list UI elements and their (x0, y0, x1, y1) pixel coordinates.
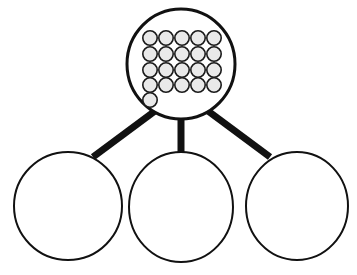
counter-dot (143, 93, 157, 107)
counter-dot (175, 78, 189, 92)
counter-dot (175, 47, 189, 61)
group-part-right[interactable] (246, 152, 348, 260)
counter-dot (143, 63, 157, 77)
counter-dot (143, 78, 157, 92)
counter-dot (207, 63, 221, 77)
counter-dot (207, 78, 221, 92)
counter-dot (191, 78, 205, 92)
group-part-left[interactable] (14, 152, 122, 260)
counter-dot (191, 31, 205, 45)
counter-dot (175, 63, 189, 77)
connector-left (93, 108, 159, 157)
counter-dot (207, 47, 221, 61)
counter-dot (159, 78, 173, 92)
counter-dot (159, 31, 173, 45)
counter-dot (159, 47, 173, 61)
counter-dot (191, 63, 205, 77)
counter-dot (159, 63, 173, 77)
counter-dot (143, 31, 157, 45)
counter-dot (175, 31, 189, 45)
group-part-middle[interactable] (129, 152, 233, 262)
counter-dot (191, 47, 205, 61)
diagram-svg (0, 0, 357, 275)
counter-dot (207, 31, 221, 45)
connector-right (204, 108, 270, 157)
child-nodes-layer (14, 152, 348, 262)
counter-dot (143, 47, 157, 61)
diagram-canvas (0, 0, 357, 275)
